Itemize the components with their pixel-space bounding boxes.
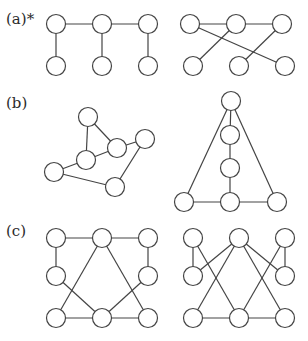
graph-node xyxy=(108,139,127,158)
graph-a-left xyxy=(47,15,158,76)
graph-node xyxy=(106,178,125,197)
graph-node xyxy=(276,57,295,76)
graph-node xyxy=(184,309,203,328)
graph-node xyxy=(139,309,158,328)
graph-node xyxy=(227,15,246,34)
row-label-a: (a)* xyxy=(6,10,34,28)
graph-node xyxy=(221,126,240,145)
graph-a-right xyxy=(181,15,295,76)
graph-node xyxy=(221,193,240,212)
graph-node xyxy=(276,229,295,248)
graph-node xyxy=(47,57,66,76)
graph-node xyxy=(221,159,240,178)
row-label-c: (c) xyxy=(6,222,26,240)
graph-node xyxy=(45,163,64,182)
graph-node xyxy=(139,15,158,34)
graph-node xyxy=(47,15,66,34)
graph-node xyxy=(273,15,292,34)
graph-node xyxy=(184,57,203,76)
graph-node xyxy=(268,193,287,212)
graph-b-left xyxy=(45,108,155,197)
graph-node xyxy=(47,229,66,248)
graph-node xyxy=(184,229,203,248)
graph-node xyxy=(93,309,112,328)
graph-node xyxy=(184,267,203,286)
graph-node xyxy=(79,108,98,127)
graph-node xyxy=(276,309,295,328)
graph-b-right xyxy=(175,92,287,212)
graph-node xyxy=(47,267,66,286)
graph-edge xyxy=(184,101,231,202)
graph-node xyxy=(230,229,249,248)
graph-node xyxy=(222,92,241,111)
graph-node xyxy=(276,267,295,286)
graph-node xyxy=(136,130,155,149)
graph-diagram xyxy=(0,0,308,341)
graph-node xyxy=(93,15,112,34)
graph-c-left xyxy=(47,229,158,328)
graph-node xyxy=(93,57,112,76)
graph-c-right xyxy=(184,229,295,328)
graph-node xyxy=(77,151,96,170)
graph-node xyxy=(47,309,66,328)
row-label-b: (b) xyxy=(6,94,27,112)
graph-node xyxy=(230,309,249,328)
graph-node xyxy=(175,193,194,212)
graph-node xyxy=(230,57,249,76)
graph-node xyxy=(139,229,158,248)
graph-node xyxy=(139,57,158,76)
graph-node xyxy=(139,267,158,286)
graph-edge xyxy=(231,101,277,202)
graph-node xyxy=(93,229,112,248)
graph-node xyxy=(181,15,200,34)
